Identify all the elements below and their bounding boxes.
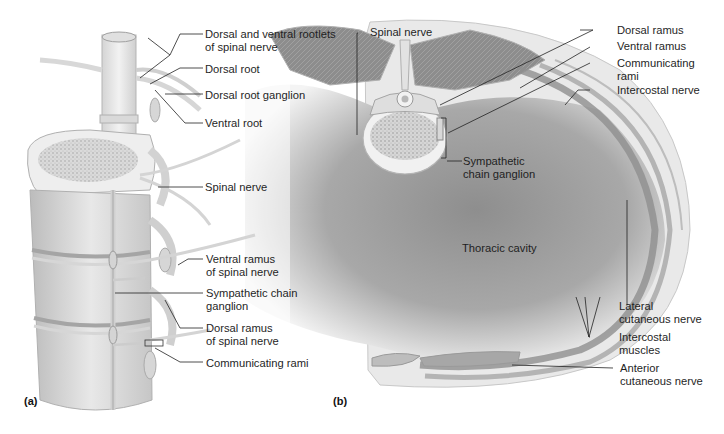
label-dorsal-root-ganglion: Dorsal root ganglion — [205, 89, 305, 102]
label-dorsal-ramus-b: Dorsal ramus — [617, 24, 684, 37]
label-dorsal-ramus-a: Dorsal ramus of spinal nerve — [206, 322, 279, 348]
label-sympathetic-chain-ganglion-a: Sympathetic chain ganglion — [206, 287, 297, 313]
label-spinal-nerve-b: Spinal nerve — [370, 26, 432, 39]
label-intercostal-muscles: Intercostal muscles — [619, 331, 671, 357]
label-communicating-rami-a: Communicating rami — [206, 357, 309, 370]
label-ventral-ramus-b: Ventral ramus — [617, 40, 686, 53]
label-ventral-root: Ventral root — [205, 117, 262, 130]
panel-tag-b: (b) — [333, 395, 347, 407]
label-intercostal-nerve: Intercostal nerve — [617, 84, 700, 97]
label-communicating-rami-b: Communicating rami — [617, 57, 695, 83]
anatomy-figure: Dorsal and ventral rootlets of spinal ne… — [0, 0, 724, 434]
label-sympathetic-chain-ganglion-b: Sympathetic chain ganglion — [463, 155, 535, 181]
label-spinal-nerve-a: Spinal nerve — [205, 181, 267, 194]
label-ventral-ramus-a: Ventral ramus of spinal nerve — [206, 253, 279, 279]
label-dorsal-ventral-rootlets: Dorsal and ventral rootlets of spinal ne… — [205, 28, 336, 54]
label-dorsal-root: Dorsal root — [205, 63, 260, 76]
label-anterior-cutaneous-nerve: Anterior cutaneous nerve — [620, 362, 703, 388]
illustration — [0, 0, 724, 434]
label-thoracic-cavity: Thoracic cavity — [462, 242, 537, 255]
panel-tag-a: (a) — [24, 395, 37, 407]
label-lateral-cutaneous-nerve: Lateral cutaneous nerve — [619, 300, 702, 326]
